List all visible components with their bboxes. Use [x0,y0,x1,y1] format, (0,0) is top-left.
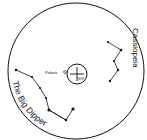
cassiopeia-constellation [107,41,122,82]
ncp-marker: NCP [67,64,87,84]
polaris-dot [64,71,67,74]
sky-boundary-circle [8,3,144,139]
polaris-label: Polaris [45,70,57,75]
star-chart: NCP Polaris The Big Dipper Cassiopeia [0,0,147,140]
polaris-star: Polaris [45,70,66,75]
cassiopeia-label-text: Cassiopeia [131,28,140,68]
ncp-label: NCP [78,77,84,81]
